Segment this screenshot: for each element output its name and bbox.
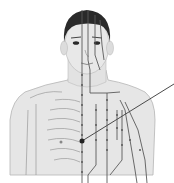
torso-meridian-drawing (0, 0, 174, 183)
acupuncture-illustration (0, 0, 174, 183)
right-ear (107, 41, 114, 55)
nipple-point (60, 141, 63, 144)
left-ear (61, 41, 68, 55)
left-eye (73, 41, 79, 45)
marked-acupoint (80, 139, 85, 144)
